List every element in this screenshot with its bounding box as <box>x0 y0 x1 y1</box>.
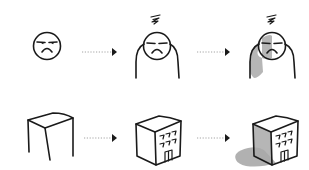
frown-face-icon <box>34 33 61 60</box>
box-icon <box>28 113 73 160</box>
building-icon <box>136 116 181 165</box>
arrow-icon <box>84 134 117 142</box>
shaded-building-icon <box>235 116 298 167</box>
arrow-icon <box>197 48 230 56</box>
diagram-canvas <box>0 0 309 170</box>
shaded-figure-icon <box>250 15 295 78</box>
figure-icon <box>136 15 179 78</box>
arrow-icon <box>82 48 117 56</box>
sketch-progression-diagram: Two-row sketch progression from simple o… <box>0 0 309 170</box>
arrow-icon <box>197 134 230 142</box>
